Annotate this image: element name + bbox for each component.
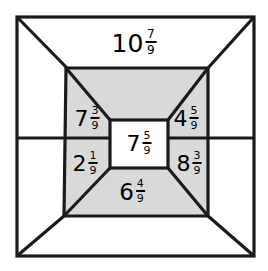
fraction-diagram: 10 7 9 7 3 9 4 5 9 7 5 9 2 1 xyxy=(0,0,268,271)
diagram-canvas xyxy=(0,0,268,271)
diagonal-outer-bottom-left xyxy=(17,216,64,256)
diagonal-outer-bottom-right xyxy=(208,216,254,256)
diagonal-outer-top-right xyxy=(208,17,254,68)
center-square-fill xyxy=(110,120,168,168)
diagonal-outer-top-left xyxy=(17,17,67,68)
